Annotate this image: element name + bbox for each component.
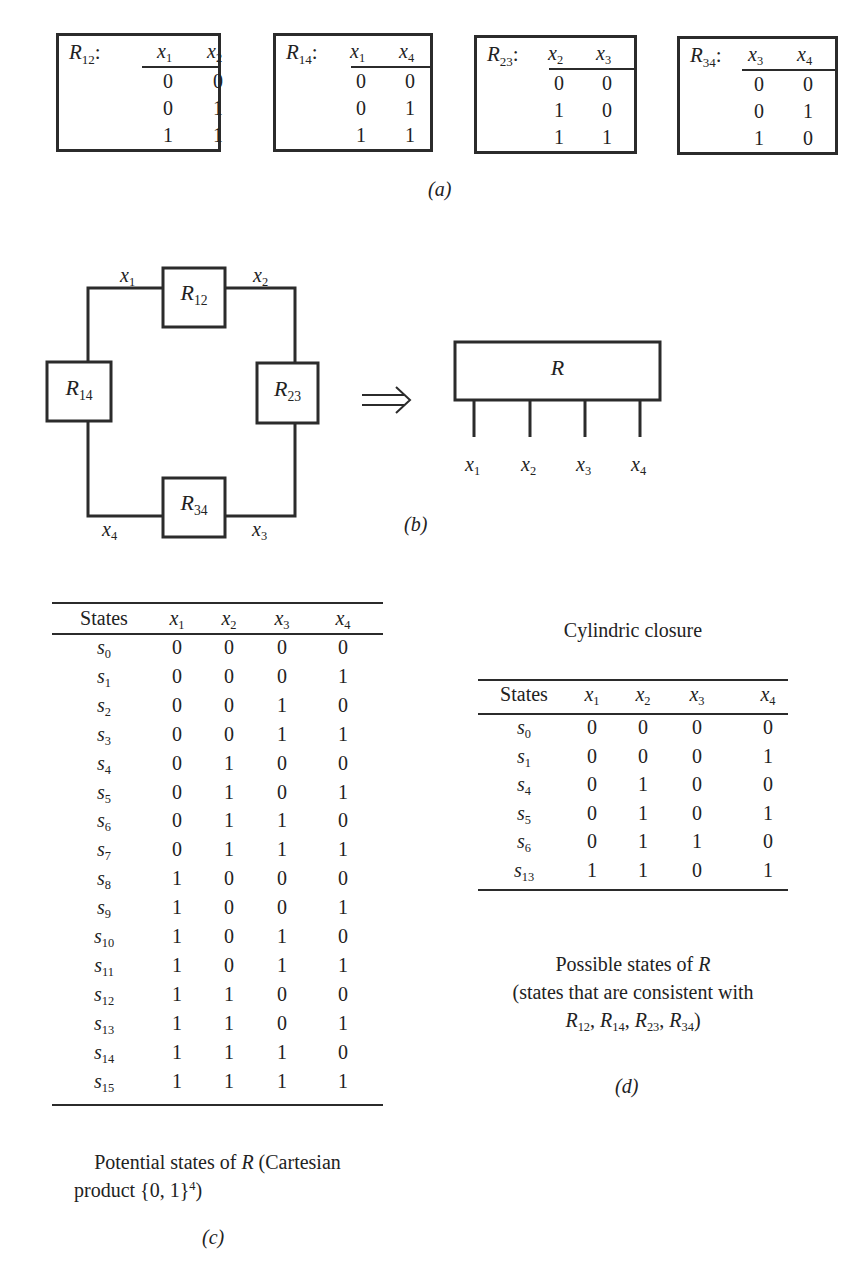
relation-box-r12: R12:x1x2000111	[56, 33, 221, 152]
header-rule	[478, 713, 788, 715]
table-row: s91001	[52, 896, 383, 925]
table-cell: 0	[749, 100, 769, 123]
table-row: s50101	[478, 802, 788, 831]
joint-var-x3: x3	[576, 453, 591, 476]
table-row: s60110	[52, 809, 383, 838]
table-cell: 0	[328, 752, 358, 775]
loop-box-r14-label: R14	[47, 375, 111, 401]
table-cell: 0	[214, 665, 244, 688]
table-cell: 1	[162, 1070, 192, 1093]
table-cell: 0	[162, 752, 192, 775]
table-cell: 1	[214, 1012, 244, 1035]
table-cell: 1	[214, 809, 244, 832]
table-cell: 1	[628, 802, 658, 825]
table-cell: 0	[798, 73, 818, 96]
joint-var-x1: x1	[465, 453, 480, 476]
table-row: s141110	[52, 1041, 383, 1070]
table-row: s151111	[52, 1070, 383, 1099]
table-cell: 0	[162, 809, 192, 832]
table-row: s00000	[52, 636, 383, 665]
table-cell: 1	[267, 838, 297, 861]
table-cell: 1	[628, 830, 658, 853]
potential-states-table: Statesx1x2x3x4s00000s10001s20010s30011s4…	[52, 600, 383, 1110]
table-cell: 0	[267, 781, 297, 804]
table-cell: 0	[214, 867, 244, 890]
table-cell: 0	[749, 73, 769, 96]
table-cell: 0	[214, 723, 244, 746]
panel-d-caption-line1: Possible states of R	[470, 950, 796, 978]
table-cell: 0	[549, 72, 569, 95]
panel-c-caption-line2: product {0, 1}4)	[52, 1176, 383, 1204]
edge-label-x4: x4	[102, 518, 117, 541]
column-header: x4	[797, 43, 812, 66]
table-cell: 0	[328, 694, 358, 717]
column-header: x4	[399, 40, 414, 63]
table-cell: 1	[267, 694, 297, 717]
table-cell: 0	[351, 97, 371, 120]
edge-label-x2: x2	[253, 264, 268, 287]
panel-b-labels: R12 R14 R23 R34 x1 x2 x3 x4 R x1 x2 x3 x…	[0, 250, 858, 560]
table-row: s40100	[478, 773, 788, 802]
state-label: s12	[74, 983, 134, 1006]
top-rule	[478, 679, 788, 681]
state-label: s10	[74, 925, 134, 948]
table-cell: 1	[628, 773, 658, 796]
table-row: s20010	[52, 694, 383, 723]
table-cell: 1	[549, 126, 569, 149]
table-cell: 1	[214, 781, 244, 804]
table-cell: 0	[267, 983, 297, 1006]
relation-name: R14:	[286, 40, 318, 65]
table-cell: 1	[162, 925, 192, 948]
table-cell: 1	[749, 127, 769, 150]
table-cell: 0	[214, 896, 244, 919]
panel-d-label: (d)	[615, 1075, 638, 1098]
relation-ref-r14: R14	[600, 1009, 625, 1031]
table-cell: 1	[577, 859, 607, 882]
bottom-rule	[478, 889, 788, 891]
table-cell: 1	[162, 867, 192, 890]
table-row: s111011	[52, 954, 383, 983]
table-cell: 1	[753, 859, 783, 882]
state-label: s9	[74, 896, 134, 919]
possible-states-table: Statesx1x2x3x4s00000s10001s40100s50101s6…	[478, 677, 788, 897]
state-label: s7	[74, 838, 134, 861]
table-cell: 0	[682, 716, 712, 739]
table-cell: 1	[597, 126, 617, 149]
table-row: s60110	[478, 830, 788, 859]
table-row: s10001	[478, 745, 788, 774]
table-cell: 1	[208, 124, 228, 147]
table-cell: 1	[351, 124, 371, 147]
table-cell: 0	[577, 802, 607, 825]
table-row: s121100	[52, 983, 383, 1012]
table-cell: 1	[162, 954, 192, 977]
table-cell: 0	[328, 983, 358, 1006]
table-cell: 0	[162, 636, 192, 659]
table-cell: 0	[351, 70, 371, 93]
relation-ref-r12: R12	[565, 1009, 590, 1031]
header-rule	[742, 69, 835, 71]
table-cell: 0	[577, 716, 607, 739]
edge-label-x1: x1	[120, 264, 135, 287]
table-cell: 0	[628, 745, 658, 768]
state-label: s13	[74, 1012, 134, 1035]
table-cell: 0	[158, 97, 178, 120]
table-cell: 0	[798, 127, 818, 150]
loop-box-r23-label: R23	[257, 376, 318, 402]
table-cell: 1	[400, 124, 420, 147]
header-x2: x2	[623, 683, 663, 706]
table-cell: 1	[753, 802, 783, 825]
header-x1: x1	[572, 683, 612, 706]
column-header: x3	[596, 42, 611, 65]
table-cell: 0	[577, 773, 607, 796]
header-x3: x3	[262, 607, 302, 630]
table-cell: 1	[328, 838, 358, 861]
panel-c-label: (c)	[202, 1226, 224, 1249]
table-cell: 1	[158, 124, 178, 147]
table-cell: 0	[158, 70, 178, 93]
table-cell: 0	[162, 723, 192, 746]
table-cell: 0	[577, 830, 607, 853]
header-x4: x4	[748, 683, 788, 706]
table-cell: 0	[328, 925, 358, 948]
state-label: s2	[74, 694, 134, 717]
table-cell: 0	[753, 773, 783, 796]
